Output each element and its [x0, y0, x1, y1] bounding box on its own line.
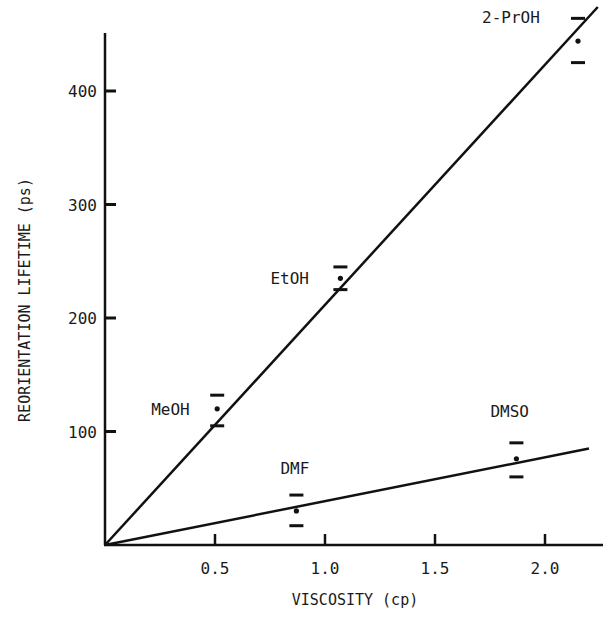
y-tick-label: 300 [68, 196, 97, 215]
data-marker [215, 406, 220, 411]
data-marker [294, 508, 299, 513]
y-tick-label: 200 [68, 309, 97, 328]
point-label: DMF [280, 459, 309, 478]
chart: 100200300400 0.51.01.52.0 MeOHEtOH2-PrOH… [0, 0, 609, 626]
y-axis-title: REORIENTATION LIFETIME (ps) [16, 178, 34, 422]
x-tick-label: 2.0 [531, 559, 560, 578]
x-tick-label: 1.5 [421, 559, 450, 578]
axes [104, 33, 603, 545]
x-tick-label: 0.5 [201, 559, 230, 578]
data-marker [575, 38, 580, 43]
y-tick-label: 400 [68, 82, 97, 101]
data-point-etoh: EtOH [270, 267, 347, 290]
x-ticks: 0.51.01.52.0 [201, 534, 560, 578]
fit-line [105, 449, 589, 545]
point-label: MeOH [151, 400, 190, 419]
y-tick-label: 100 [68, 423, 97, 442]
y-ticks: 100200300400 [68, 82, 116, 442]
x-tick-label: 1.0 [311, 559, 340, 578]
x-axis-title: VISCOSITY (cp) [292, 591, 418, 609]
data-point-dmso: DMSO [490, 402, 529, 477]
fit-line [105, 7, 598, 545]
data-marker [338, 276, 343, 281]
point-label: DMSO [490, 402, 529, 421]
point-label: EtOH [270, 269, 309, 288]
fit-lines [105, 7, 598, 545]
data-marker [514, 456, 519, 461]
data-points: MeOHEtOH2-PrOHDMFDMSO [151, 8, 585, 526]
data-point-2-proh: 2-PrOH [482, 8, 585, 63]
data-point-meoh: MeOH [151, 395, 224, 426]
point-label: 2-PrOH [482, 8, 540, 27]
data-point-dmf: DMF [280, 459, 309, 526]
